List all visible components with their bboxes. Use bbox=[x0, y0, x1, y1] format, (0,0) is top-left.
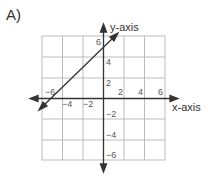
x-axis-label: x-axis bbox=[172, 101, 201, 113]
y-axis-down-arrow-icon bbox=[101, 164, 107, 172]
svg-text:6: 6 bbox=[96, 37, 101, 47]
coordinate-graph: −6 −4 −2 2 4 6 6 4 2 −2 −4 −6 y-axis x-a… bbox=[0, 0, 210, 176]
svg-text:4: 4 bbox=[138, 87, 143, 97]
x-axis-left-arrow-icon bbox=[30, 96, 38, 102]
svg-text:−4: −4 bbox=[62, 99, 72, 109]
svg-text:−6: −6 bbox=[106, 150, 116, 160]
svg-text:2: 2 bbox=[106, 78, 111, 88]
y-axis-up-arrow-icon bbox=[101, 24, 107, 32]
y-axis-label: y-axis bbox=[110, 21, 139, 33]
svg-text:4: 4 bbox=[106, 57, 111, 67]
svg-text:−2: −2 bbox=[83, 99, 93, 109]
svg-text:−6: −6 bbox=[45, 87, 55, 97]
svg-text:6: 6 bbox=[158, 87, 163, 97]
svg-text:2: 2 bbox=[118, 87, 123, 97]
svg-text:−2: −2 bbox=[106, 109, 116, 119]
svg-text:−4: −4 bbox=[106, 130, 116, 140]
